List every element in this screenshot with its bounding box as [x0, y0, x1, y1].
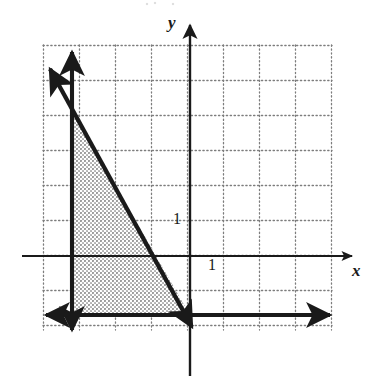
- x-axis-tick-label-1: 1: [208, 257, 216, 273]
- graph-figure: y x 1 1: [0, 0, 380, 376]
- y-axis-label: y: [168, 14, 176, 31]
- coordinate-plane-svg: [0, 0, 380, 376]
- x-axis-label: x: [352, 262, 361, 279]
- y-axis-tick-label-1: 1: [173, 211, 181, 227]
